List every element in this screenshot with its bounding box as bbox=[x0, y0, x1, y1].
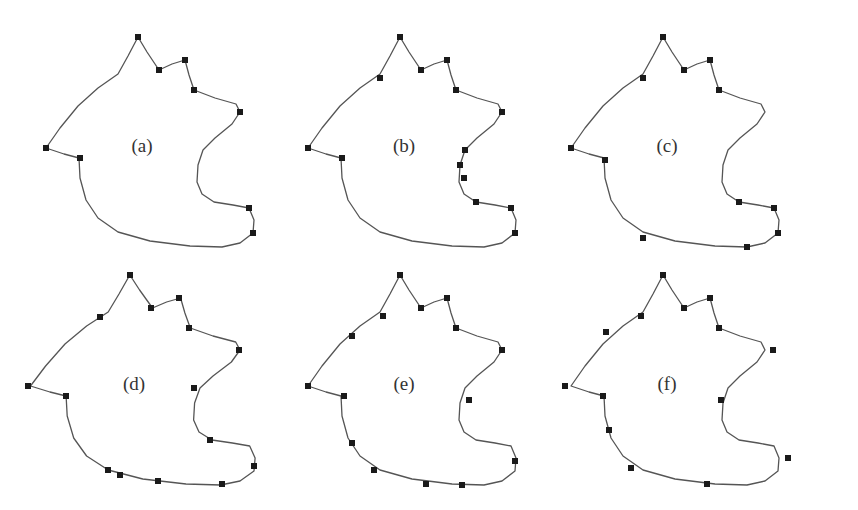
panel-label: (d) bbox=[123, 373, 145, 395]
dominant-point-marker bbox=[457, 162, 463, 168]
dominant-point-marker bbox=[462, 147, 468, 153]
dominant-point-marker bbox=[182, 57, 188, 63]
dominant-point-marker bbox=[785, 455, 791, 461]
dominant-point-marker bbox=[77, 155, 83, 161]
figure-canvas: (a)(b)(c)(d)(e)(f) bbox=[0, 0, 858, 510]
dominant-point-marker bbox=[155, 478, 161, 484]
dominant-point-marker bbox=[473, 199, 479, 205]
dominant-point-marker bbox=[156, 67, 162, 73]
panel-b: (b) bbox=[305, 34, 518, 247]
dominant-point-marker bbox=[349, 440, 355, 446]
dominant-point-marker bbox=[377, 75, 383, 81]
dominant-point-marker bbox=[718, 397, 724, 403]
dominant-point-marker bbox=[770, 347, 776, 353]
dominant-point-marker bbox=[97, 314, 103, 320]
dominant-point-marker bbox=[305, 383, 311, 389]
dominant-point-marker bbox=[246, 205, 252, 211]
dominant-point-marker bbox=[716, 87, 722, 93]
dominant-point-marker bbox=[63, 393, 69, 399]
panel-e: (e) bbox=[305, 272, 518, 488]
dominant-point-marker bbox=[349, 333, 355, 339]
dominant-point-marker bbox=[444, 57, 450, 63]
dominant-point-marker bbox=[418, 305, 424, 311]
dominant-point-marker bbox=[397, 272, 403, 278]
panel-label: (b) bbox=[393, 135, 415, 157]
dominant-point-marker bbox=[568, 145, 574, 151]
dominant-point-marker bbox=[25, 383, 31, 389]
dominant-point-marker bbox=[508, 205, 514, 211]
dominant-point-marker bbox=[638, 313, 644, 319]
dominant-point-marker bbox=[716, 325, 722, 331]
dominant-point-marker bbox=[191, 87, 197, 93]
dominant-point-marker bbox=[499, 109, 505, 115]
dominant-point-marker bbox=[191, 385, 197, 391]
dominant-point-marker bbox=[775, 230, 781, 236]
dominant-point-marker bbox=[771, 205, 777, 211]
panel-label: (f) bbox=[658, 373, 677, 395]
dominant-point-marker bbox=[219, 481, 225, 487]
dominant-point-marker bbox=[461, 175, 467, 181]
dominant-point-marker bbox=[602, 157, 608, 163]
dominant-point-marker bbox=[117, 472, 123, 478]
dominant-point-marker bbox=[736, 199, 742, 205]
dominant-point-marker bbox=[600, 393, 606, 399]
dominant-point-marker bbox=[640, 75, 646, 81]
dominant-point-marker bbox=[628, 465, 634, 471]
panel-c: (c) bbox=[568, 34, 781, 250]
dominant-point-marker bbox=[176, 295, 182, 301]
dominant-point-marker bbox=[562, 383, 568, 389]
dominant-point-marker bbox=[236, 347, 242, 353]
panel-label: (c) bbox=[656, 135, 677, 157]
dominant-point-marker bbox=[305, 145, 311, 151]
dominant-point-marker bbox=[251, 463, 257, 469]
dominant-point-marker bbox=[707, 57, 713, 63]
dominant-point-marker bbox=[207, 437, 213, 443]
dominant-point-marker bbox=[499, 347, 505, 353]
dominant-point-marker bbox=[459, 482, 465, 488]
dominant-point-marker bbox=[681, 305, 687, 311]
dominant-point-marker bbox=[135, 34, 141, 40]
panel-label: (a) bbox=[131, 135, 152, 157]
panel-d: (d) bbox=[25, 272, 257, 487]
dominant-point-marker bbox=[466, 397, 472, 403]
dominant-point-marker bbox=[237, 109, 243, 115]
dominant-point-marker bbox=[127, 272, 133, 278]
dominant-point-marker bbox=[186, 325, 192, 331]
dominant-point-marker bbox=[371, 467, 377, 473]
dominant-point-marker bbox=[512, 458, 518, 464]
dominant-point-marker bbox=[341, 393, 347, 399]
dominant-point-marker bbox=[423, 481, 429, 487]
dominant-point-marker bbox=[744, 244, 750, 250]
dominant-point-marker bbox=[444, 295, 450, 301]
dominant-point-marker bbox=[380, 313, 386, 319]
dominant-point-marker bbox=[660, 272, 666, 278]
dominant-point-marker bbox=[660, 34, 666, 40]
dominant-point-marker bbox=[339, 155, 345, 161]
dominant-point-marker bbox=[397, 34, 403, 40]
panel-a: (a) bbox=[43, 34, 256, 247]
dominant-point-marker bbox=[418, 67, 424, 73]
dominant-point-marker bbox=[453, 325, 459, 331]
dominant-point-marker bbox=[148, 305, 154, 311]
panel-f: (f) bbox=[562, 272, 791, 487]
dominant-point-marker bbox=[43, 145, 49, 151]
dominant-point-marker bbox=[606, 427, 612, 433]
dominant-point-marker bbox=[707, 295, 713, 301]
dominant-point-marker bbox=[453, 87, 459, 93]
dominant-point-marker bbox=[640, 235, 646, 241]
panel-label: (e) bbox=[393, 373, 414, 395]
dominant-point-marker bbox=[603, 329, 609, 335]
dominant-point-marker bbox=[704, 481, 710, 487]
dominant-point-marker bbox=[681, 67, 687, 73]
dominant-point-marker bbox=[250, 230, 256, 236]
dominant-point-marker bbox=[105, 467, 111, 473]
dominant-point-marker bbox=[512, 230, 518, 236]
